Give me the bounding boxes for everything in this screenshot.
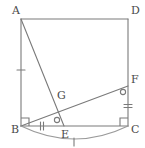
- geometry-figure-svg: ADBCEFG: [0, 0, 145, 148]
- vertex-label-d: D: [131, 4, 140, 17]
- segment-bf: [21, 86, 128, 126]
- vertex-label-a: A: [11, 4, 21, 17]
- geometry-figure-container: ADBCEFG: [0, 0, 145, 148]
- angle-mark-at-e: [54, 117, 59, 122]
- arc-b-to-c: [21, 126, 128, 139]
- angle-mark-at-f: [120, 89, 125, 94]
- segment-ae: [21, 19, 64, 126]
- arcs-layer: [21, 126, 128, 139]
- vertex-label-g: G: [57, 89, 66, 102]
- vertex-label-b: B: [11, 123, 19, 136]
- right-angle-mark-c: [120, 118, 128, 126]
- vertex-labels-layer: ADBCEFG: [11, 4, 140, 141]
- vertex-label-f: F: [131, 73, 139, 86]
- vertex-label-c: C: [131, 123, 139, 136]
- segments-layer: [21, 19, 128, 126]
- marks-layer: [17, 70, 132, 146]
- vertex-label-e: E: [61, 128, 69, 141]
